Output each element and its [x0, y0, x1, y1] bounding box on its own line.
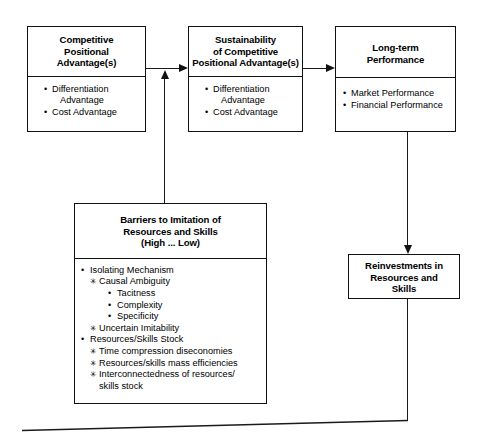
bullet-dot-icon: • — [205, 84, 208, 96]
box-body-long-term-performance: • Market Performance • Financial Perform… — [336, 78, 455, 117]
bullet-asterisk-icon: ✳ — [90, 323, 97, 335]
bullet-list: • Differentiation Advantage • Cost Advan… — [205, 84, 296, 119]
title-line-2: Performance — [340, 54, 451, 66]
box-title-sustainability: Sustainability of Competitive Positional… — [189, 27, 302, 76]
list-item-text: Financial Performance — [351, 100, 443, 110]
list-item-text: Time compression diseconomies — [99, 346, 232, 356]
bullet-asterisk-icon: ✳ — [90, 358, 97, 370]
list-item: ✳ Interconnectedness of resources/ skill… — [90, 369, 260, 392]
box-title-reinvestments: Reinvestments in Resources and Skills — [349, 255, 459, 302]
box-title-competitive-positional-advantage: Competitive Positional Advantage(s) — [28, 27, 145, 76]
connector-barriers-to-sustainability-line — [164, 77, 165, 203]
box-competitive-positional-advantage: Competitive Positional Advantage(s) • Di… — [27, 26, 146, 132]
list-item: ✳ Time compression diseconomies — [90, 346, 260, 358]
box-body-competitive-positional-advantage: • Differentiation Advantage • Cost Advan… — [28, 77, 145, 125]
connector-reinvestments-feedback-horizontal — [20, 410, 412, 434]
list-item-text: Market Performance — [351, 88, 434, 98]
bullet-asterisk-icon: ✳ — [90, 276, 97, 288]
list-item: • Market Performance — [343, 88, 449, 100]
box-long-term-performance: Long-term Performance • Market Performan… — [335, 26, 456, 132]
diagram-canvas: Competitive Positional Advantage(s) • Di… — [0, 0, 484, 446]
list-item: • Differentiation Advantage — [44, 84, 139, 107]
list-item-text: Resources/skills mass efficiencies — [99, 358, 238, 368]
list-item-text: Cost Advantage — [52, 107, 117, 117]
list-item-text: Cost Advantage — [213, 107, 278, 117]
bullet-asterisk-icon: ✳ — [90, 346, 97, 358]
title-line-3: (High ... Low) — [79, 237, 262, 249]
connector-cpa-to-sustainability-arrowhead — [179, 64, 188, 72]
connector-performance-to-reinvestments-arrowhead — [404, 245, 412, 254]
list-item-text: Isolating Mechanism — [90, 265, 174, 275]
title-line-1: Reinvestments in — [353, 260, 455, 272]
list-item: • Isolating Mechanism — [81, 265, 260, 277]
connector-barriers-to-sustainability-arrowhead — [161, 70, 169, 79]
list-item-text: Complexity — [117, 300, 162, 310]
list-item-text: Uncertain Imitability — [99, 323, 179, 333]
bullet-dot-icon: • — [81, 265, 84, 277]
bullet-list: • Market Performance • Financial Perform… — [343, 88, 449, 111]
list-item-text: Causal Ambiguity — [99, 276, 170, 286]
list-item: • Resources/Skills Stock — [81, 334, 260, 346]
list-item-text: Resources/Skills Stock — [90, 334, 183, 344]
list-item: ✳ Uncertain Imitability — [90, 323, 260, 335]
title-line-2: of Competitive — [191, 46, 300, 58]
list-item-text: Differentiation — [213, 84, 270, 94]
list-item: ✳ Resources/skills mass efficiencies — [90, 358, 260, 370]
connector-reinvestments-feedback-vertical — [407, 299, 408, 420]
title-line-1: Sustainability — [191, 34, 300, 46]
title-line-1: Barriers to Imitation of — [79, 214, 262, 226]
list-item: • Financial Performance — [343, 100, 449, 112]
box-body-sustainability: • Differentiation Advantage • Cost Advan… — [189, 77, 302, 125]
bullet-dot-icon: • — [44, 84, 47, 96]
list-item: • Cost Advantage — [205, 107, 296, 119]
box-title-barriers-to-imitation: Barriers to Imitation of Resources and S… — [75, 204, 266, 258]
title-line-3: Skills — [353, 283, 455, 295]
box-title-long-term-performance: Long-term Performance — [336, 27, 455, 77]
list-item-text: Interconnectedness of resources/ — [99, 369, 235, 379]
title-line-2: Positional — [32, 46, 141, 58]
bullet-list-barriers: • Isolating Mechanism ✳ Causal Ambiguity… — [81, 265, 260, 393]
title-line-3: Advantage(s) — [32, 57, 141, 69]
list-item-text: Tacitness — [117, 288, 155, 298]
list-item-continuation: Advantage — [213, 95, 296, 107]
bullet-dot-icon: • — [205, 107, 208, 119]
bullet-dot-icon: • — [108, 288, 111, 300]
title-line-2: Resources and — [353, 272, 455, 284]
list-item: • Differentiation Advantage — [205, 84, 296, 107]
bullet-dot-icon: • — [108, 311, 111, 323]
title-line-2: Resources and Skills — [79, 226, 262, 238]
title-line-1: Competitive — [32, 34, 141, 46]
box-body-barriers-to-imitation: • Isolating Mechanism ✳ Causal Ambiguity… — [75, 259, 266, 399]
title-line-3: Positional Advantage(s) — [191, 57, 300, 69]
bullet-asterisk-icon: ✳ — [90, 369, 97, 381]
list-item: • Cost Advantage — [44, 107, 139, 119]
list-item-continuation: skills stock — [99, 381, 260, 393]
bullet-dot-icon: • — [343, 100, 346, 112]
bullet-list: • Differentiation Advantage • Cost Advan… — [44, 84, 139, 119]
bullet-dot-icon: • — [343, 88, 346, 100]
list-item-text: Specificity — [117, 311, 158, 321]
bullet-dot-icon: • — [108, 300, 111, 312]
box-barriers-to-imitation: Barriers to Imitation of Resources and S… — [74, 203, 267, 404]
bullet-dot-icon: • — [81, 334, 84, 346]
connector-sustainability-to-performance-line — [303, 68, 327, 69]
connector-sustainability-to-performance-arrowhead — [326, 64, 335, 72]
bullet-dot-icon: • — [44, 107, 47, 119]
list-item: ✳ Causal Ambiguity — [90, 276, 260, 288]
list-item-continuation: Advantage — [52, 95, 139, 107]
list-item: • Tacitness — [108, 288, 260, 300]
box-sustainability-of-competitive-positional-advantage: Sustainability of Competitive Positional… — [188, 26, 303, 132]
list-item: • Complexity — [108, 300, 260, 312]
connector-cpa-to-sustainability-line — [146, 68, 180, 69]
box-reinvestments-in-resources-and-skills: Reinvestments in Resources and Skills — [348, 254, 460, 299]
list-item-text: Differentiation — [52, 84, 109, 94]
title-line-1: Long-term — [340, 42, 451, 54]
list-item: • Specificity — [108, 311, 260, 323]
connector-performance-to-reinvestments-line — [407, 132, 408, 246]
